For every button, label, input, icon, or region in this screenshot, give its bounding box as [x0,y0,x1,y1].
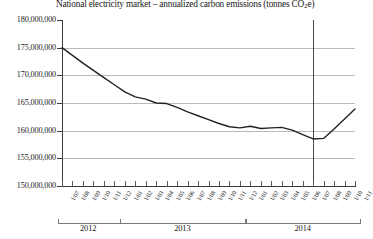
y-axis-tick-mark [57,48,62,49]
y-axis-tick-mark [57,158,62,159]
y-axis-tick-mark [57,131,62,132]
x-axis-tick-label: 1/11 [363,190,373,202]
y-axis-tick-mark [57,186,62,187]
emissions-series-line [62,48,355,139]
y-axis-tick-mark [57,75,62,76]
y-axis-tick-mark [57,20,62,21]
y-axis-tick-mark [57,103,62,104]
